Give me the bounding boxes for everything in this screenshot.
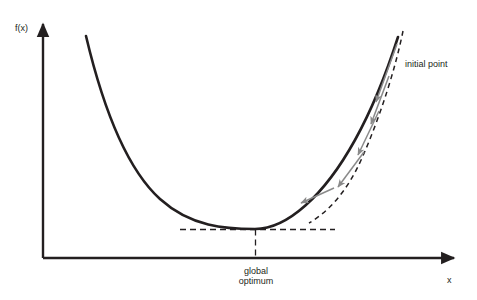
optimum-guides-group xyxy=(180,230,335,258)
descent-step-arrow-4 xyxy=(338,152,364,187)
gradient-descent-figure xyxy=(0,0,477,300)
global-optimum-label: global optimum xyxy=(226,266,286,287)
objective-function-curve xyxy=(86,36,398,229)
diagram-canvas: f(x) x initial point global optimum xyxy=(0,0,477,300)
global-optimum-label-line1: global xyxy=(226,266,286,276)
global-optimum-label-line2: optimum xyxy=(226,276,286,286)
initial-point-label: initial point xyxy=(405,59,448,69)
tangent-dashed-line xyxy=(309,31,403,223)
axes-group xyxy=(43,24,454,258)
descent-step-arrows-group xyxy=(301,44,397,203)
descent-step-arrow-5 xyxy=(301,188,334,203)
y-axis-label: f(x) xyxy=(15,23,28,33)
descent-step-arrow-3 xyxy=(358,111,379,155)
x-axis-label: x xyxy=(447,275,452,285)
